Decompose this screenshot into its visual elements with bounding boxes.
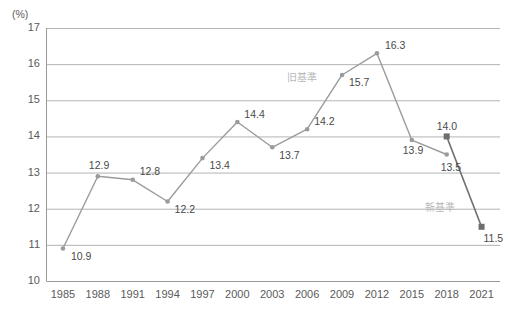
data-point-value-label: 12.9 <box>89 159 109 171</box>
data-point-marker <box>479 224 485 230</box>
y-tick-label: 14 <box>14 129 40 141</box>
data-point-value-label: 16.3 <box>385 39 405 51</box>
data-point-value-label: 10.9 <box>71 250 91 262</box>
data-point-marker <box>340 73 345 78</box>
data-point-marker <box>165 199 170 204</box>
series-annotation-old-standard: 旧基準 <box>287 69 317 84</box>
data-point-value-label: 15.7 <box>349 76 369 88</box>
series-line-old-standard <box>63 53 447 248</box>
data-point-marker <box>305 127 310 132</box>
data-point-value-label: 14.0 <box>437 120 457 132</box>
y-tick-label: 17 <box>14 21 40 33</box>
y-tick-label: 15 <box>14 93 40 105</box>
data-point-value-label: 12.8 <box>140 165 160 177</box>
data-point-value-label: 13.5 <box>441 161 461 173</box>
x-tick-label: 2021 <box>462 288 502 300</box>
data-point-marker <box>375 51 380 56</box>
data-point-marker <box>200 156 205 161</box>
data-point-marker <box>96 174 101 179</box>
data-point-marker <box>235 120 240 125</box>
data-point-marker <box>444 133 450 139</box>
series-annotation-new-standard: 新基準 <box>425 199 455 214</box>
data-point-value-label: 13.7 <box>279 149 299 161</box>
data-point-value-label: 14.4 <box>244 108 264 120</box>
data-point-marker <box>270 145 275 150</box>
y-tick-label: 10 <box>14 274 40 286</box>
y-tick-label: 13 <box>14 166 40 178</box>
y-axis-unit-label: (%) <box>12 8 28 20</box>
line-chart: 1011121314151617 19851988199119941997200… <box>0 0 511 312</box>
data-point-marker <box>409 138 414 143</box>
y-tick-label: 16 <box>14 57 40 69</box>
data-point-value-label: 12.2 <box>175 203 195 215</box>
y-tick-label: 12 <box>14 202 40 214</box>
data-point-value-label: 14.2 <box>314 115 334 127</box>
data-point-marker <box>130 178 135 183</box>
axis-lines <box>47 28 501 282</box>
data-point-value-label: 13.4 <box>209 159 229 171</box>
chart-canvas <box>0 0 511 312</box>
data-point-marker <box>444 152 449 157</box>
data-point-value-label: 13.9 <box>403 144 423 156</box>
data-point-value-label: 11.5 <box>484 232 504 244</box>
data-point-marker <box>61 246 66 251</box>
y-tick-label: 11 <box>14 238 40 250</box>
